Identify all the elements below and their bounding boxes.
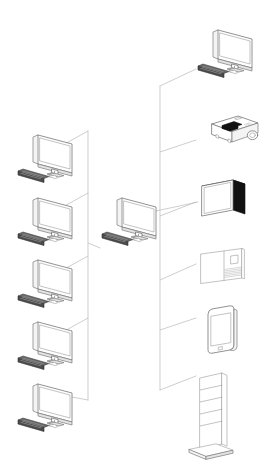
workstation-2[interactable]: Workstation 2 — [18, 198, 72, 246]
right-nodes-group: Remote Monitor Projector Flat Panel Disp… — [189, 30, 258, 459]
left-nodes-group: Workstation 1 Workstation 2 Workstation … — [18, 135, 72, 432]
workstation-4[interactable]: Workstation 4 — [18, 322, 72, 370]
interactive-whiteboard-icon — [201, 249, 244, 284]
desktop-computer-icon — [18, 384, 72, 432]
floor-stand-kiosk[interactable]: Floor Stand Kiosk — [189, 373, 233, 459]
desktop-computer-icon — [102, 198, 156, 246]
tablet-icon — [208, 306, 237, 353]
projector-icon — [212, 116, 258, 143]
desktop-computer-icon — [198, 30, 252, 78]
desktop-computer-icon — [18, 198, 72, 246]
tablet-device[interactable]: Tablet Device — [208, 306, 237, 353]
central-workstation[interactable]: Central Workstation — [102, 198, 156, 246]
flat-panel-tv-icon — [202, 180, 245, 216]
connectivity-diagram: AV and Computer Connectivity Isometric D… — [0, 0, 264, 476]
desktop-computer-icon — [18, 135, 72, 183]
floor-stand-icon — [189, 373, 233, 459]
desktop-computer-icon — [18, 260, 72, 308]
workstation-1[interactable]: Workstation 1 — [18, 135, 72, 183]
workstation-3[interactable]: Workstation 3 — [18, 260, 72, 308]
projector[interactable]: Projector — [212, 116, 258, 143]
flat-panel-display[interactable]: Flat Panel Display — [202, 180, 245, 216]
desktop-computer-icon — [18, 322, 72, 370]
right-trunk — [160, 69, 196, 390]
remote-monitor[interactable]: Remote Monitor — [198, 30, 252, 78]
interactive-panel[interactable]: Interactive Panel — [201, 249, 244, 284]
workstation-5[interactable]: Workstation 5 — [18, 384, 72, 432]
connection-lines — [61, 69, 198, 400]
diagram-canvas: Workstation 1 Workstation 2 Workstation … — [0, 0, 264, 476]
